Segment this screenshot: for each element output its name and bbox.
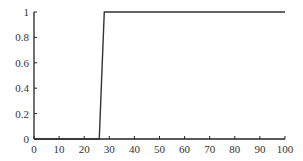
y-tick-label: 0.4 bbox=[15, 82, 29, 94]
x-tick-label: 50 bbox=[154, 143, 166, 155]
x-tick-label: 100 bbox=[277, 143, 294, 155]
y-tick-label: 0 bbox=[24, 133, 30, 145]
x-tick-label: 30 bbox=[104, 143, 116, 155]
axes bbox=[34, 12, 285, 139]
tick-labels: 010203040506070809010000.20.40.60.81 bbox=[15, 6, 294, 155]
y-tick-label: 0.2 bbox=[15, 108, 29, 120]
x-tick-label: 40 bbox=[129, 143, 141, 155]
x-tick-label: 0 bbox=[31, 143, 37, 155]
step-line-chart: 010203040506070809010000.20.40.60.81 bbox=[0, 0, 303, 161]
x-tick-label: 90 bbox=[254, 143, 266, 155]
x-tick-label: 10 bbox=[54, 143, 66, 155]
y-tick-label: 0.6 bbox=[15, 57, 29, 69]
y-tick-label: 0.8 bbox=[15, 31, 29, 43]
axis-ticks bbox=[34, 12, 285, 139]
x-tick-label: 70 bbox=[204, 143, 216, 155]
y-tick-label: 1 bbox=[24, 6, 30, 18]
x-tick-label: 80 bbox=[229, 143, 241, 155]
x-tick-label: 20 bbox=[79, 143, 91, 155]
series-line-step bbox=[34, 12, 285, 139]
series-lines bbox=[34, 12, 285, 139]
x-tick-label: 60 bbox=[179, 143, 191, 155]
